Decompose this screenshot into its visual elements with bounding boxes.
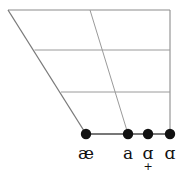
vowel-point-marker: [123, 129, 133, 139]
vowel-chart: æ a ɑ + ɑ: [0, 0, 187, 175]
vowel-diacritic-advanced-2: +: [131, 161, 165, 172]
grid-line-central: [90, 10, 128, 134]
vowel-point-marker: [165, 129, 175, 139]
vowel-label-0: æ: [69, 145, 103, 162]
quad-left-edge: [8, 10, 86, 134]
vowel-point-marker: [81, 129, 91, 139]
vowel-point-marker: [143, 129, 153, 139]
vowel-label-3: ɑ: [153, 145, 187, 162]
